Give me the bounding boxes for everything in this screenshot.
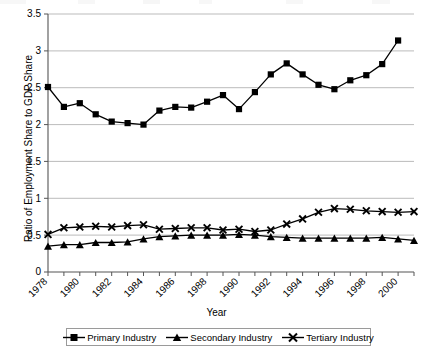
legend-item-primary-industry: Primary Industry: [63, 332, 156, 343]
legend-label-primary-industry: Primary Industry: [87, 332, 156, 343]
y-axis-tick-label: 2: [35, 119, 41, 130]
x-axis-tick-label: 1984: [121, 275, 145, 299]
series-line-secondary-industry: [48, 234, 414, 246]
data-point-primary-industry: [252, 89, 258, 95]
x-axis-tick-label: 1992: [249, 275, 273, 299]
legend-marker-triangle-icon: [166, 332, 188, 343]
data-point-primary-industry: [300, 71, 306, 77]
legend-marker-x-icon: [282, 332, 304, 343]
x-axis-tick-label: 1986: [153, 275, 177, 299]
x-axis-tick-label: 1990: [217, 275, 241, 299]
x-axis-tick-label: 1978: [26, 275, 50, 299]
data-point-primary-industry: [220, 92, 226, 98]
y-axis-title: Ratio of Employment Share to GDP Share: [23, 39, 34, 259]
data-point-primary-industry: [363, 72, 369, 78]
data-point-primary-industry: [156, 108, 162, 114]
data-point-primary-industry: [331, 86, 337, 92]
legend-label-secondary-industry: Secondary Industry: [190, 332, 272, 343]
series-line-primary-industry: [48, 41, 398, 125]
data-point-primary-industry: [45, 84, 51, 90]
data-point-primary-industry: [109, 119, 115, 125]
data-point-primary-industry: [140, 122, 146, 128]
x-axis-tick-label: 1980: [58, 275, 82, 299]
data-point-primary-industry: [347, 77, 353, 83]
data-point-primary-industry: [268, 71, 274, 77]
data-point-primary-industry: [395, 37, 401, 43]
data-point-primary-industry: [284, 60, 290, 66]
data-point-primary-industry: [236, 106, 242, 112]
line-chart-plot: 00.511.522.533.5197819801982198419861988…: [0, 0, 433, 353]
data-point-primary-industry: [93, 111, 99, 117]
legend-label-tertiary-industry: Tertiary Industry: [306, 332, 374, 343]
chart-container: 00.511.522.533.5197819801982198419861988…: [0, 0, 433, 353]
x-axis-tick-label: 1982: [90, 275, 114, 299]
data-point-primary-industry: [172, 104, 178, 110]
x-axis-tick-label: 2000: [376, 275, 400, 299]
y-axis-tick-label: 1: [35, 193, 41, 204]
series-line-tertiary-industry: [48, 209, 414, 235]
data-point-primary-industry: [125, 120, 131, 126]
data-point-primary-industry: [61, 104, 67, 110]
y-axis-tick-label: 3.5: [27, 8, 41, 19]
legend-item-secondary-industry: Secondary Industry: [166, 332, 272, 343]
x-axis-tick-label: 1996: [312, 275, 336, 299]
legend-item-tertiary-industry: Tertiary Industry: [282, 332, 374, 343]
x-axis-tick-label: 1998: [344, 275, 368, 299]
data-point-primary-industry: [77, 100, 83, 106]
chart-legend: Primary Industry Secondary Industry Tert…: [66, 328, 371, 346]
x-axis-tick-label: 1994: [281, 275, 305, 299]
data-point-primary-industry: [188, 105, 194, 111]
x-axis-tick-label: 1988: [185, 275, 209, 299]
y-axis-tick-label: 3: [35, 45, 41, 56]
legend-marker-square-icon: [63, 332, 85, 343]
x-axis-title: Year: [0, 307, 433, 318]
data-point-primary-industry: [315, 82, 321, 88]
data-point-primary-industry: [379, 61, 385, 67]
data-point-primary-industry: [204, 99, 210, 105]
